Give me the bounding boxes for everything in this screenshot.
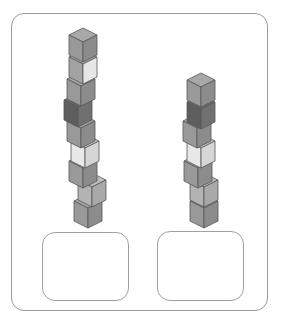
right-answer-box[interactable]: [157, 231, 244, 301]
cube: [69, 28, 97, 62]
cube: [187, 73, 215, 107]
left-tower: [64, 28, 106, 228]
right-tower: [183, 73, 218, 228]
left-answer-box[interactable]: [42, 232, 129, 301]
